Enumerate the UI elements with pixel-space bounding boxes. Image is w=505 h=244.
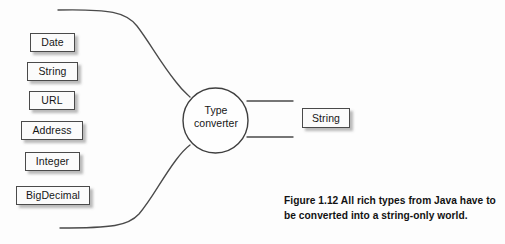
type-box-label: BigDecimal <box>26 190 80 201</box>
type-box-string: String <box>27 62 78 81</box>
input-flow-curve-top <box>58 10 190 97</box>
type-box-label: Date <box>41 37 64 48</box>
type-box-label: Integer <box>36 156 69 167</box>
type-box-label: Address <box>32 125 71 136</box>
type-box-integer: Integer <box>25 152 80 171</box>
type-converter-circle <box>183 88 248 153</box>
output-box-string: String <box>302 108 350 128</box>
type-box-address: Address <box>21 121 83 140</box>
figure-caption-line2: be converted into a string-only world. <box>284 209 499 224</box>
type-box-date: Date <box>30 33 75 52</box>
type-box-url: URL <box>29 91 75 110</box>
figure-container: Date String URL Address Integer BigDecim… <box>0 0 505 244</box>
type-box-label: String <box>38 66 66 77</box>
figure-caption: Figure 1.12 All rich types from Java hav… <box>284 194 499 223</box>
type-box-bigdecimal: BigDecimal <box>16 186 90 205</box>
output-box-label: String <box>312 113 340 124</box>
type-box-label: URL <box>41 95 62 106</box>
figure-caption-line1: Figure 1.12 All rich types from Java hav… <box>284 194 499 209</box>
